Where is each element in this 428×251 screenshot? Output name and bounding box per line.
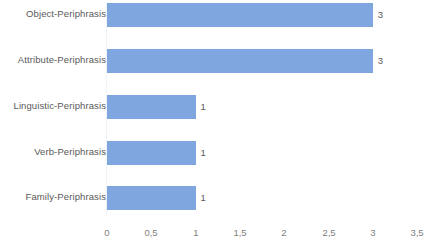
category-label-linguistic-periphrasis: Linguistic-Periphrasis: [0, 101, 106, 111]
bar-value-linguistic-periphrasis: 1: [201, 95, 206, 119]
bar-value-attribute-periphrasis: 3: [378, 49, 383, 73]
xtick-2: 2: [281, 228, 286, 238]
category-label-object-periphrasis: Object-Periphrasis: [0, 9, 106, 19]
bar-value-verb-periphrasis: 1: [201, 141, 206, 165]
category-label-verb-periphrasis: Verb-Periphrasis: [0, 147, 106, 157]
xtick-0_5: 0,5: [144, 228, 157, 238]
xtick-1_5: 1,5: [233, 228, 246, 238]
bar-value-object-periphrasis: 3: [378, 3, 383, 27]
xtick-0: 0: [104, 228, 109, 238]
category-label-attribute-periphrasis: Attribute-Periphrasis: [0, 55, 106, 65]
bar-value-family-periphrasis: 1: [201, 186, 206, 210]
bar-linguistic-periphrasis[interactable]: [107, 95, 196, 119]
bar-object-periphrasis[interactable]: [107, 3, 373, 27]
category-label-family-periphrasis: Family-Periphrasis: [0, 192, 106, 202]
xtick-3_5: 3,5: [410, 228, 423, 238]
xtick-3: 3: [370, 228, 375, 238]
bar-family-periphrasis[interactable]: [107, 186, 196, 210]
xtick-2_5: 2,5: [322, 228, 335, 238]
bar-chart: Object-Periphrasis Attribute-Periphrasis…: [0, 0, 428, 251]
bar-verb-periphrasis[interactable]: [107, 141, 196, 165]
bar-attribute-periphrasis[interactable]: [107, 49, 373, 73]
xtick-1: 1: [193, 228, 198, 238]
